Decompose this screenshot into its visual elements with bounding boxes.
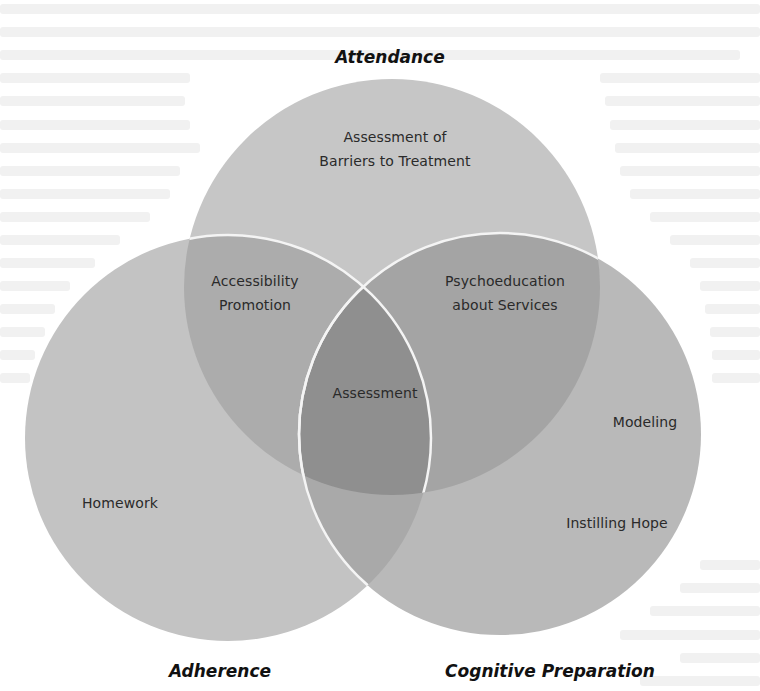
label-modeling: Modeling: [600, 412, 690, 432]
label-homework: Homework: [65, 493, 175, 513]
venn-circles: [0, 0, 760, 691]
venn-diagram: Attendance Adherence Cognitive Preparati…: [0, 0, 760, 691]
label-assessment-of-barriers: Assessment of Barriers to Treatment: [290, 127, 500, 171]
label-psychoeducation-about-services: Psychoeducation about Services: [425, 271, 585, 315]
set-title-attendance: Attendance: [300, 47, 480, 67]
label-accessibility-promotion: Accessibility Promotion: [185, 271, 325, 315]
label-assessment: Assessment: [310, 383, 440, 403]
set-title-cognitive-preparation: Cognitive Preparation: [420, 661, 680, 681]
set-title-adherence: Adherence: [140, 661, 300, 681]
label-instilling-hope: Instilling Hope: [552, 513, 682, 533]
